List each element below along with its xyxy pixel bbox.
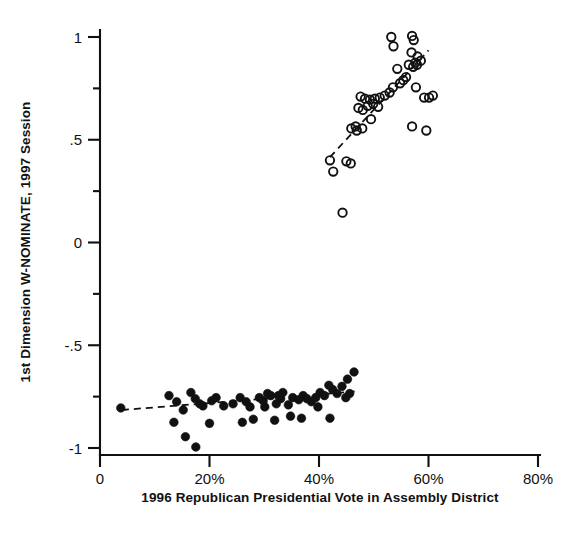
data-point-filled [205, 419, 214, 428]
data-point-filled [345, 389, 354, 398]
x-tick-label: 20% [194, 470, 224, 487]
data-point-open [408, 122, 416, 130]
data-point-filled [297, 414, 306, 423]
data-point-filled [338, 382, 347, 391]
scatter-plot-figure: 1.50-.5-1 020%40%60%80% 1996 Republican … [0, 0, 573, 535]
x-tick-label: 0 [96, 470, 104, 487]
data-point-filled [286, 412, 295, 421]
data-point-filled [219, 402, 228, 411]
data-point-open [329, 167, 337, 175]
y-tick-label: .5 [69, 131, 82, 148]
x-axis-title: 1996 Republican Presidential Vote in Ass… [141, 490, 499, 505]
data-point-open [412, 83, 420, 91]
data-point-filled [212, 393, 221, 402]
plot-canvas: 1.50-.5-1 020%40%60%80% 1996 Republican … [0, 0, 573, 535]
data-point-open [367, 115, 375, 123]
data-point-filled [333, 389, 342, 398]
data-point-open [387, 33, 395, 41]
y-tick-label: 1 [74, 29, 82, 46]
data-point-filled [165, 391, 174, 400]
data-point-filled [179, 406, 188, 415]
data-point-filled [246, 403, 255, 412]
y-tick-label: -.5 [64, 337, 82, 354]
series-democrats-points [117, 368, 359, 452]
y-tick-group: 1.50-.5-1 [64, 29, 100, 457]
data-point-filled [326, 414, 335, 423]
data-point-filled [172, 397, 181, 406]
x-tick-group: 020%40%60%80% [96, 455, 553, 487]
data-point-filled [229, 400, 238, 409]
data-point-filled [314, 403, 323, 412]
y-tick-label: -1 [69, 440, 82, 457]
data-point-filled [181, 432, 190, 441]
y-axis-title: 1st Dimension W-NOMINATE, 1997 Session [18, 102, 33, 383]
data-point-open [338, 209, 346, 217]
series-republicans-points [326, 32, 437, 217]
data-point-filled [192, 443, 201, 452]
data-point-filled [343, 375, 352, 384]
data-point-open [393, 65, 401, 73]
data-point-open [422, 126, 430, 134]
data-point-open [326, 156, 334, 164]
y-tick-label: 0 [74, 234, 82, 251]
x-tick-label: 80% [523, 470, 553, 487]
data-point-filled [170, 418, 179, 427]
data-point-filled [195, 400, 204, 409]
x-tick-label: 40% [304, 470, 334, 487]
data-point-filled [320, 391, 329, 400]
data-point-filled [238, 418, 247, 427]
data-point-filled [350, 368, 359, 377]
data-point-filled [267, 391, 276, 400]
data-point-open [389, 42, 397, 50]
x-tick-label: 60% [413, 470, 443, 487]
data-point-filled [270, 416, 279, 425]
data-point-filled [117, 404, 126, 413]
data-point-filled [249, 415, 258, 424]
data-point-filled [260, 403, 269, 412]
data-point-filled [272, 400, 281, 409]
